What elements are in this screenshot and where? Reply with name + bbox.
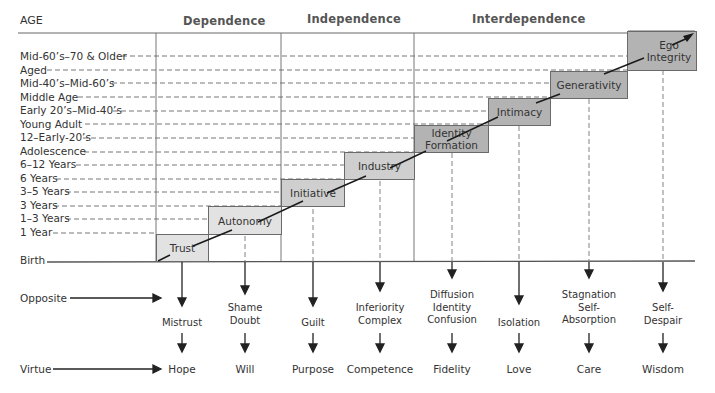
age-label: 3–5 Years bbox=[20, 185, 70, 197]
age-label: Aged bbox=[20, 64, 47, 76]
stage-label: Formation bbox=[425, 139, 478, 151]
stage-identity-formation: Identity Formation bbox=[414, 125, 489, 153]
stage-label: Identity bbox=[431, 127, 471, 139]
stage-intimacy: Intimacy bbox=[488, 98, 551, 126]
age-label: 1 Year bbox=[20, 226, 52, 238]
opposite-text: Stagnation bbox=[544, 289, 634, 302]
age-label: Young Adult bbox=[20, 118, 82, 130]
stage-ego-integrity: Ego Integrity bbox=[627, 31, 697, 71]
age-label: 1–3 Years bbox=[20, 212, 70, 224]
stage-label: Autonomy bbox=[218, 215, 272, 227]
opposite-text: Despair bbox=[618, 315, 708, 328]
age-label: 12–Early-20’s bbox=[20, 131, 91, 143]
age-label: Adolescence bbox=[20, 145, 86, 157]
stage-generativity: Generativity bbox=[550, 71, 628, 99]
stage-label: Industry bbox=[358, 160, 401, 172]
age-label: Mid-40’s–Mid-60’s bbox=[20, 77, 114, 89]
age-label-birth: Birth bbox=[20, 254, 45, 266]
stage-autonomy: Autonomy bbox=[208, 206, 282, 235]
stage-label: Initiative bbox=[290, 187, 336, 199]
opposite-ego-integrity: Self- Despair bbox=[618, 302, 708, 327]
stage-label: Generativity bbox=[557, 79, 622, 91]
opposite-text: Shame bbox=[200, 302, 290, 315]
stage-label: Intimacy bbox=[497, 106, 542, 118]
age-label: Early 20’s–Mid-40’s bbox=[20, 104, 122, 116]
stage-label: Trust bbox=[170, 242, 195, 254]
stage-label: Integrity bbox=[647, 51, 692, 63]
stage-label: Ego bbox=[659, 39, 679, 51]
virtue-label: Virtue bbox=[20, 363, 51, 375]
virtue-wisdom: Wisdom bbox=[618, 363, 708, 375]
stage-industry: Industry bbox=[344, 152, 415, 180]
opposite-text: Identity bbox=[407, 302, 497, 315]
stage-trust: Trust bbox=[156, 234, 209, 262]
stage-initiative: Initiative bbox=[281, 179, 345, 207]
opposite-text: Self- bbox=[618, 302, 708, 315]
age-label: Middle Age bbox=[20, 91, 78, 103]
age-label: 6 Years bbox=[20, 172, 58, 184]
age-label: Mid-60’s–70 & Older bbox=[20, 50, 127, 62]
opposite-text: Diffusion bbox=[407, 289, 497, 302]
opposite-label: Opposite bbox=[20, 292, 67, 304]
age-label: 3 Years bbox=[20, 199, 58, 211]
age-label: 6–12 Years bbox=[20, 158, 76, 170]
